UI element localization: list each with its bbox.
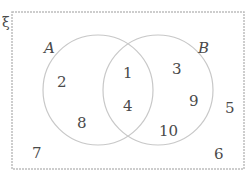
region-a-only-element: 8	[77, 114, 87, 132]
universal-set-symbol: ξ	[2, 14, 10, 30]
venn-diagram: ξ A B 2 8 1 4 3 9 10 5 6 7	[0, 0, 248, 182]
region-a-only-element: 2	[57, 73, 67, 91]
region-outside-element: 6	[214, 145, 224, 163]
region-b-only-element: 9	[189, 92, 199, 110]
set-b-label: B	[197, 39, 209, 57]
region-intersection-element: 1	[123, 64, 133, 82]
region-outside-element: 5	[225, 99, 235, 117]
universal-set-box	[12, 12, 244, 169]
region-intersection-element: 4	[123, 97, 133, 115]
set-b-circle	[103, 35, 213, 145]
region-b-only-element: 3	[172, 60, 182, 78]
region-b-only-element: 10	[159, 122, 178, 140]
region-outside-element: 7	[32, 144, 42, 162]
set-a-label: A	[42, 39, 55, 57]
